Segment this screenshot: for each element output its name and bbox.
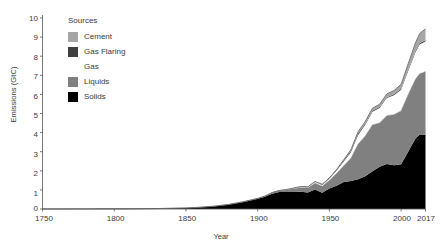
y-tick-4: 4: [16, 131, 38, 139]
legend-swatch-gas-flaring: [68, 47, 78, 57]
x-axis-title: Year: [0, 232, 442, 241]
y-tick-2: 2: [16, 170, 38, 178]
y-tick-10: 10: [16, 15, 38, 23]
y-tick-8: 8: [16, 54, 38, 62]
x-tick-1900: 1900: [250, 214, 268, 223]
y-tick-0: 0: [16, 205, 38, 213]
legend-item-gas[interactable]: Gas: [68, 59, 125, 74]
y-tick-1: 1: [16, 190, 38, 198]
x-tick-2000: 2000: [393, 214, 411, 223]
y-tick-9: 9: [16, 34, 38, 42]
legend-swatch-solids: [68, 92, 78, 102]
plot-area: [0, 0, 442, 252]
x-tick-1950: 1950: [321, 214, 339, 223]
legend-label-gas: Gas: [84, 62, 99, 72]
legend-item-solids[interactable]: Solids: [68, 89, 125, 104]
legend-label-solids: Solids: [84, 92, 106, 102]
legend-swatch-liquids: [68, 77, 78, 87]
x-tick-2017: 2017: [417, 214, 435, 223]
legend-label-cement: Cement: [84, 32, 112, 42]
y-tick-6: 6: [16, 93, 38, 101]
legend-item-liquids[interactable]: Liquids: [68, 74, 125, 89]
legend-label-liquids: Liquids: [84, 77, 109, 87]
x-tick-1800: 1800: [107, 214, 125, 223]
legend-item-cement[interactable]: Cement: [68, 29, 125, 44]
legend-title: Sources: [68, 16, 125, 25]
emissions-area-chart: Emissions (GtC) 10 9 8 7 6 5 4 3 2 1 0 1…: [0, 0, 442, 252]
y-tick-5: 5: [16, 112, 38, 120]
legend-item-gas-flaring[interactable]: Gas Flaring: [68, 44, 125, 59]
legend: Sources Cement Gas Flaring Gas Liquids S…: [68, 16, 125, 104]
legend-swatch-gas: [68, 62, 78, 72]
x-tick-1750: 1750: [35, 214, 53, 223]
y-tick-7: 7: [16, 73, 38, 81]
y-tick-3: 3: [16, 151, 38, 159]
legend-swatch-cement: [68, 32, 78, 42]
x-tick-1850: 1850: [178, 214, 196, 223]
legend-label-gas-flaring: Gas Flaring: [84, 47, 125, 57]
